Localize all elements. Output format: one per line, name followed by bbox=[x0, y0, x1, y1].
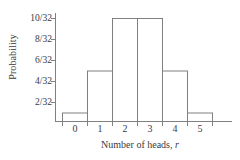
x-axis-tick-labels: 0 1 2 3 4 5 bbox=[0, 122, 240, 136]
x-tick-label: 0 bbox=[62, 122, 88, 135]
y-tick-marks bbox=[51, 19, 56, 103]
bar bbox=[163, 71, 188, 122]
bar-series bbox=[63, 19, 213, 122]
bar bbox=[138, 19, 163, 122]
x-axis-title-text: Number of heads, bbox=[101, 139, 172, 150]
x-tick-label: 4 bbox=[162, 122, 188, 135]
bar bbox=[113, 19, 138, 122]
x-tick-label: 5 bbox=[187, 122, 213, 135]
x-tick-label: 2 bbox=[112, 122, 138, 135]
x-axis-title-variable: r bbox=[172, 139, 178, 150]
plot-area bbox=[0, 0, 240, 160]
bar bbox=[63, 113, 88, 122]
histogram-chart: Probability 10/32 8/32 6/32 4/32 2/32 bbox=[0, 0, 240, 160]
x-tick-label: 3 bbox=[137, 122, 163, 135]
bar bbox=[188, 113, 213, 122]
x-axis-title: Number of heads, r bbox=[48, 139, 232, 150]
bar bbox=[88, 71, 113, 122]
x-tick-label: 1 bbox=[87, 122, 113, 135]
